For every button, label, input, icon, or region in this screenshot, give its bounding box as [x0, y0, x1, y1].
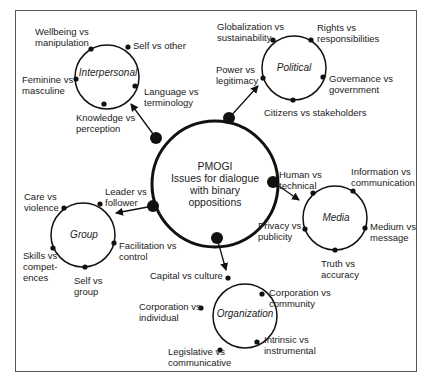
center-hub-label: PMOGI Issues for dialogue with binary op… — [171, 160, 259, 208]
opposition-label: Leader vs follower — [105, 186, 147, 208]
opposition-label: Feminine vs masculine — [22, 74, 73, 96]
opposition-label: Legislative vs communicative — [168, 346, 231, 368]
center-line-1: Issues for dialogue — [171, 172, 259, 184]
center-title: PMOGI — [171, 160, 259, 172]
category-media: Media — [322, 212, 349, 223]
opposition-label: Skills vs compet- ences — [23, 250, 57, 283]
opposition-label: Information vs communication — [351, 166, 415, 188]
opposition-label: Governance vs government — [329, 73, 393, 95]
opposition-label: Truth vs accuracy — [321, 258, 359, 280]
opposition-label: Knowledge vs perception — [76, 112, 135, 134]
category-group: Group — [70, 229, 98, 240]
arrow-to-political — [229, 86, 258, 118]
opposition-label: Wellbeing vs manipulation — [35, 26, 89, 48]
opposition-label: Intrinsic vs instrumental — [264, 334, 316, 356]
opposition-label: Power vs legitimacy — [216, 64, 258, 86]
opposition-label: Corporation vs community — [269, 287, 331, 309]
center-line-2: with binary — [171, 184, 259, 196]
category-organization: Organization — [217, 308, 274, 319]
opposition-label: Care vs violence — [24, 191, 59, 213]
center-line-3: oppositions — [171, 196, 259, 208]
opposition-label: Facilitation vs control — [119, 240, 177, 262]
opposition-label: Medium vs message — [370, 221, 416, 243]
opposition-label: Citizens vs stakeholders — [264, 107, 366, 118]
opposition-label: Corporation vs individual — [139, 301, 201, 323]
opposition-label: Self vs group — [74, 275, 103, 297]
category-political: Political — [277, 62, 311, 73]
opposition-label: Self vs other — [133, 40, 186, 51]
opposition-label: Language vs terminology — [144, 86, 198, 108]
opposition-label: Globalization vs sustainability — [217, 21, 284, 43]
opposition-label: Rights vs responsibilities — [317, 22, 379, 44]
category-interpersonal: Interpersonal — [79, 67, 137, 78]
opposition-label: Capital vs culture — [150, 270, 223, 281]
opposition-label: Human vs technical — [279, 169, 322, 191]
opposition-label: Privacy vs publicity — [258, 220, 301, 242]
